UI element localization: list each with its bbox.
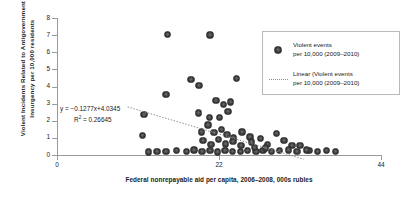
data-point: [262, 144, 269, 151]
data-point: [198, 148, 205, 155]
y-tick-label: 2: [36, 116, 50, 123]
data-point: [227, 98, 234, 105]
data-point: [195, 82, 202, 89]
x-tick-mark: [57, 155, 58, 160]
data-point: [206, 147, 213, 154]
data-point: [221, 147, 228, 154]
data-point: [273, 130, 280, 137]
scatter-chart-figure: Violent Incidents Related to Antigovernm…: [0, 0, 418, 201]
y-tick-label: 1: [36, 133, 50, 140]
legend-item-linear-trend[interactable]: Linear (Violent events per 10,000 (2009–…: [263, 67, 401, 91]
data-point: [173, 147, 180, 154]
legend-marker-icon: [263, 46, 293, 53]
x-tick-mark: [219, 155, 220, 160]
data-point: [215, 136, 222, 143]
data-point: [206, 31, 213, 38]
data-point: [251, 144, 258, 151]
data-point: [323, 147, 330, 154]
x-tick-label: 44: [369, 161, 393, 168]
legend-dotted-line-icon: [263, 79, 293, 80]
data-point: [198, 128, 205, 135]
chart-legend: Violent events per 10,000 (2009–2010) Li…: [262, 31, 400, 95]
data-point: [257, 135, 264, 142]
data-point: [187, 76, 194, 83]
y-tick-label: 7: [36, 31, 50, 38]
data-point: [303, 146, 310, 153]
data-point: [195, 109, 202, 116]
y-tick-label: 8: [36, 14, 50, 21]
x-tick-mark: [381, 155, 382, 160]
data-point: [285, 146, 292, 153]
data-point: [237, 148, 244, 155]
y-tick-label: 4: [36, 82, 50, 89]
r-squared-line: R2 = 0.26645: [60, 113, 120, 124]
legend-label-line2: per 10,000 (2009–2010): [293, 79, 359, 86]
data-point: [214, 148, 221, 155]
regression-equation-annotation: y = −0.1277x+4.0345 R2 = 0.26645: [60, 104, 120, 124]
data-point: [238, 128, 245, 135]
data-point: [314, 148, 321, 155]
data-point: [229, 138, 236, 145]
data-point: [190, 146, 197, 153]
data-point: [332, 148, 339, 155]
data-point: [139, 132, 146, 139]
regression-equation-line: y = −0.1277x+4.0345: [60, 105, 120, 112]
data-point: [164, 31, 171, 38]
data-point: [145, 148, 152, 155]
x-tick-label: 0: [45, 161, 69, 168]
data-point: [233, 75, 240, 82]
y-tick-label: 3: [36, 99, 50, 106]
data-point: [229, 148, 236, 155]
legend-item-label: Linear (Violent events per 10,000 (2009–…: [293, 70, 359, 87]
data-point: [199, 137, 206, 144]
r-squared-value: = 0.26645: [81, 116, 111, 123]
x-axis-title: Federal nonrepayable aid per capita, 200…: [57, 176, 381, 183]
data-point: [183, 148, 190, 155]
data-point: [162, 148, 169, 155]
data-point: [224, 108, 231, 115]
legend-item-violent-events[interactable]: Violent events per 10,000 (2009–2010): [263, 38, 401, 62]
data-point: [212, 97, 219, 104]
data-point: [204, 121, 211, 128]
data-point: [276, 147, 283, 154]
y-tick-label: 0: [36, 151, 50, 158]
legend-label-line2: per 10,000 (2009–2010): [293, 50, 359, 57]
data-point: [140, 111, 147, 118]
y-tick-label: 5: [36, 65, 50, 72]
legend-label-line1: Linear (Violent events: [293, 70, 353, 77]
y-tick-label: 6: [36, 48, 50, 55]
y-axis-title-line1: Violent Incidents Related to Antigovernm…: [19, 1, 26, 136]
data-point: [162, 91, 169, 98]
legend-item-label: Violent events per 10,000 (2009–2010): [293, 41, 359, 58]
x-tick-label: 22: [207, 161, 231, 168]
legend-label-line1: Violent events: [293, 41, 332, 48]
data-point: [206, 114, 213, 121]
data-point: [216, 114, 223, 121]
data-point: [153, 148, 160, 155]
data-point: [280, 137, 287, 144]
